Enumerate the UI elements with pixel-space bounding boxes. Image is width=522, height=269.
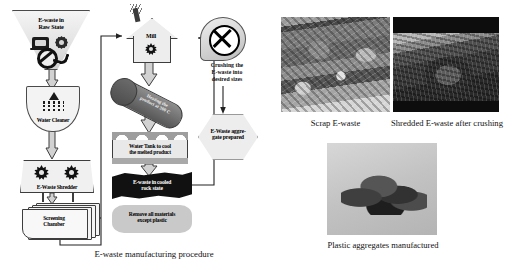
photo-scrap-image	[281, 17, 390, 112]
arrowhead-to-prepared	[220, 107, 226, 114]
shredder-shape	[20, 160, 94, 193]
shower-icon	[49, 92, 59, 100]
photo-shredded-ewaste	[393, 17, 499, 112]
node-screening-chamber: Screening Chamber	[22, 203, 100, 237]
photo-scrap-caption: Scrap E-waste	[281, 118, 390, 128]
node-water-tank: Water Tank to cool the melted product	[112, 132, 188, 164]
node-raw-state: E-waste in Raw State	[12, 10, 90, 70]
node-remove-materials: Remove all materials except plastic	[112, 205, 192, 233]
arrowhead-to-mill	[116, 33, 122, 39]
crusher-line1: Crushing the	[211, 62, 243, 68]
crusher-line2: E-waste into	[212, 69, 243, 75]
photo-plastic-caption: Plastic aggregates manufactured	[305, 240, 461, 250]
photo-shredded-caption: Shredded E-waste after crushing	[376, 118, 518, 128]
figure-root: E-waste in Raw State Water Cleaner E-Was…	[0, 0, 522, 269]
photo-shredded-image	[393, 17, 499, 112]
water-drops-icon	[39, 101, 67, 113]
crusher-x-icon	[209, 25, 240, 56]
crusher-line3: desired sizes	[212, 76, 243, 82]
arrow-cleaner-to-shredder	[46, 130, 58, 159]
arrow-mill-to-tube	[141, 62, 157, 86]
node-mill: Mill	[126, 18, 176, 62]
rounded-shape	[112, 205, 192, 233]
water-surface	[112, 132, 188, 140]
photo-scrap-ewaste	[281, 17, 390, 112]
flow-diagram: E-waste in Raw State Water Cleaner E-Was…	[0, 0, 270, 269]
tank-base	[112, 158, 188, 164]
node-shredder: E-Waste Shredder	[20, 160, 94, 193]
shredder-leg	[72, 193, 74, 202]
node-water-cleaner: Water Cleaner	[26, 86, 80, 132]
photo-plastic-aggregates	[327, 143, 437, 235]
photo-plastic-image	[327, 143, 437, 235]
node-cooled-rock: E-waste in cooled rock state	[112, 172, 192, 199]
stack-card-front	[22, 209, 88, 239]
node-crusher-label: Crushing the E-waste into desired sizes	[196, 62, 258, 84]
node-crusher	[200, 14, 246, 62]
hexagon-shape	[198, 114, 258, 160]
node-aggregate-prepared: E-Waste aggre- gate prepared	[198, 114, 258, 160]
flow-diagram-caption: E-waste manufacturing procedure	[66, 249, 242, 259]
rock-shape	[112, 172, 192, 199]
shredder-leg	[42, 193, 44, 202]
